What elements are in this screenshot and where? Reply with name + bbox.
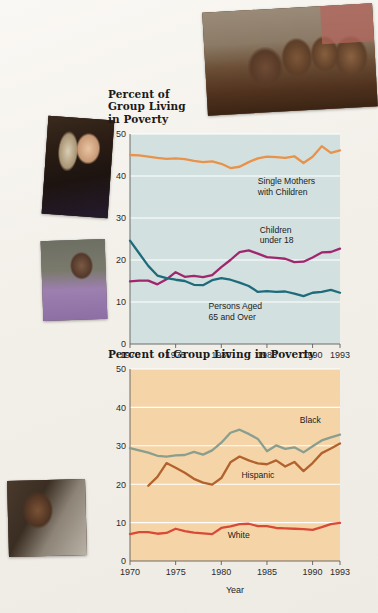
chart-1-series-label: under 18 bbox=[260, 235, 294, 245]
chart-1-ytick-label: 40 bbox=[116, 172, 126, 182]
photo-woman bbox=[42, 116, 115, 218]
chart-2-xtick-label: 1970 bbox=[120, 567, 140, 577]
chart-1-ytick-label: 30 bbox=[116, 214, 126, 224]
chart-1-svg: 01020304050197019751980198519901993Singl… bbox=[108, 128, 360, 368]
photo-man-image bbox=[7, 479, 87, 557]
chart-2-xtick-label: 1975 bbox=[166, 567, 186, 577]
chart-1-ytick-label: 50 bbox=[116, 130, 126, 140]
chart-2-series-label: Black bbox=[300, 415, 322, 425]
chart-1-title-line: Percent of bbox=[108, 88, 208, 100]
photo-elder bbox=[41, 239, 108, 321]
chart-2-series-label: Hispanic bbox=[241, 471, 275, 481]
chart-2-xtick-label: 1990 bbox=[303, 567, 323, 577]
chart-1-title-line: in Poverty bbox=[108, 113, 208, 125]
photo-man bbox=[7, 479, 87, 557]
chart-2-ytick-label: 40 bbox=[116, 403, 126, 413]
chart-2-xaxis-title: Year bbox=[226, 585, 244, 595]
chart-2-title-line: Percent of Group Living in Poverty bbox=[108, 348, 358, 360]
chart-2-ytick-label: 10 bbox=[116, 518, 126, 528]
chart-poverty-by-group-1: Percent ofGroup Livingin Poverty 0102030… bbox=[108, 88, 360, 368]
chart-poverty-by-race-2: Percent of Group Living in Poverty 01020… bbox=[108, 348, 360, 603]
chart-2-ytick-label: 20 bbox=[116, 480, 126, 490]
photo-woman-image bbox=[42, 116, 115, 218]
chart-1-series-label: with Children bbox=[257, 187, 308, 197]
chart-1-title: Percent ofGroup Livingin Poverty bbox=[108, 88, 208, 125]
photo-elder-image bbox=[41, 239, 108, 321]
chart-2-xtick-label: 1985 bbox=[257, 567, 277, 577]
chart-1-series-label: 65 and Over bbox=[209, 312, 256, 322]
chart-2-xtick-label: 1993 bbox=[330, 567, 350, 577]
chart-1-ytick-label: 20 bbox=[116, 256, 126, 266]
chart-2-title: Percent of Group Living in Poverty bbox=[108, 348, 358, 360]
chart-2-xtick-label: 1980 bbox=[211, 567, 231, 577]
chart-1-series-label: Persons Aged bbox=[209, 301, 263, 311]
chart-1-ytick-label: 10 bbox=[116, 298, 126, 308]
chart-2-ytick-label: 50 bbox=[116, 365, 126, 375]
chart-1-series-label: Children bbox=[260, 225, 292, 235]
chart-2-svg: 01020304050197019751980198519901993Black… bbox=[108, 363, 360, 603]
chart-1-series-label: Single Mothers bbox=[258, 177, 315, 187]
chart-2-ytick-label: 30 bbox=[116, 442, 126, 452]
chart-2-series-label: White bbox=[228, 531, 250, 541]
chart-2-ytick-label: 0 bbox=[121, 557, 126, 567]
chart-1-title-line: Group Living bbox=[108, 100, 208, 112]
